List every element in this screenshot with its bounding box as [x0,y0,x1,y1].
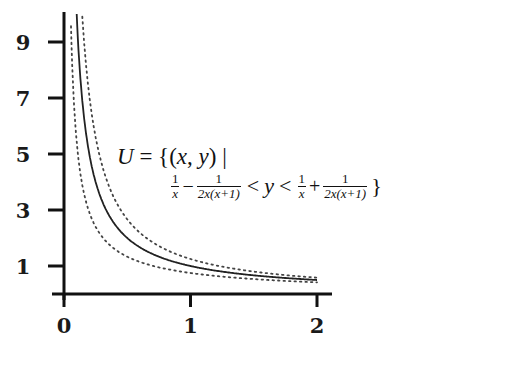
y-tick-label: 3 [16,198,31,223]
fraction-1-over-x: 1 x [297,172,306,200]
x-ticks: 012 [57,294,325,338]
fraction-error-term: 1 2x(x+1) [323,172,367,200]
x-tick-label: 2 [310,313,325,338]
fraction-1-over-x: 1 x [171,172,180,200]
y-tick-label: 7 [16,86,31,111]
set-symbol: U [117,144,134,169]
set-definition-line-2: 1 x − 1 2x(x+1) < y < 1 x + 1 2x(x+1) } [170,172,382,200]
y-tick-label: 9 [16,30,31,55]
x-tick-label: 1 [183,313,198,338]
x-tick-label: 0 [57,313,72,338]
y-tick-label: 5 [16,142,31,167]
set-definition-line-1: U = {(x, y) | [117,144,227,170]
y-tick-label: 1 [16,254,31,279]
y-ticks: 13579 [16,30,64,279]
fraction-error-term: 1 2x(x+1) [197,172,241,200]
